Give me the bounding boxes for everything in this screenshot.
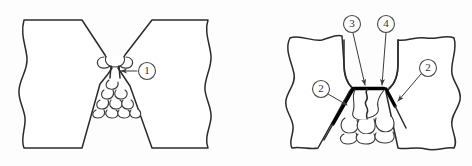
weld-bead-row4-c <box>118 110 130 118</box>
weld-pass-right-upper <box>368 90 384 118</box>
weld-pass-lower-mid <box>357 119 375 134</box>
interpass-fusion-crack <box>365 89 368 124</box>
weld-bead-cap-center <box>105 57 124 67</box>
figure-container: 1 <box>0 0 472 166</box>
weld-root-incomplete-penetration <box>110 66 120 78</box>
right-plate-outline <box>118 20 211 148</box>
weld-bead-row3-b <box>110 100 122 109</box>
welding-defect-figure: 1 <box>0 0 472 166</box>
weld-bead-row4-d <box>130 110 141 118</box>
weld-bead-row3-a <box>97 100 109 109</box>
weld-pass-lower-right <box>375 117 394 132</box>
callout-3-leader <box>353 33 365 85</box>
callout-2-right-label: 2 <box>425 61 431 73</box>
callout-2-left-label: 2 <box>318 82 324 94</box>
left-diagram: 1 <box>19 20 211 148</box>
left-plate-outline <box>19 20 112 148</box>
weld-bead-row3-c <box>122 100 134 109</box>
right-diagram-right-plate <box>386 37 460 150</box>
callout-4-label: 4 <box>383 17 389 29</box>
weld-pass-bottom-right <box>375 132 394 143</box>
callout-4: 4 <box>378 16 395 86</box>
weld-bead-row4-b <box>106 110 118 118</box>
callout-3-label: 3 <box>349 17 355 29</box>
weld-pass-left-upper <box>353 90 366 120</box>
weld-pass-lower-left <box>341 118 358 133</box>
weld-bead-row4-a <box>93 110 105 118</box>
callout-4-leader <box>382 33 386 85</box>
weld-pass-bottom-mid <box>356 134 375 144</box>
weld-bead-row2-b <box>115 90 127 99</box>
weld-bead-row1 <box>106 80 118 89</box>
callout-1-label: 1 <box>144 64 150 76</box>
right-diagram: 2 2 3 4 <box>286 16 461 150</box>
weld-bead-row2-a <box>102 90 114 99</box>
weld-pass-bottom-left <box>341 133 358 144</box>
callout-3: 3 <box>344 16 366 86</box>
